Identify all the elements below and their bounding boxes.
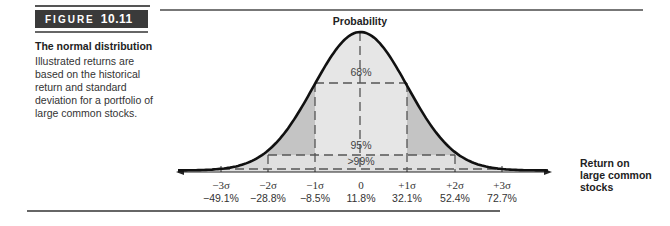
x-axis-title: Return on large common stocks [580, 157, 660, 193]
normal-distribution-chart: Probability 68% 95% >99% −3σ −49.1% −2σ … [0, 0, 670, 226]
x-axis-title-line1: Return on [580, 157, 660, 169]
tick-sigma-minus1: −1σ [306, 179, 324, 191]
x-axis-title-line3: stocks [580, 181, 660, 193]
label-99: >99% [347, 155, 374, 167]
tick-return-zero: 11.8% [347, 192, 376, 204]
tick-sigma-plus3: +3σ [493, 179, 511, 191]
tick-sigma-minus2: −2σ [259, 179, 277, 191]
tick-return-plus2: 52.4% [440, 192, 470, 204]
tick-return-plus3: 72.7% [487, 192, 517, 204]
tick-return-plus1: 32.1% [392, 192, 422, 204]
label-95: 95% [350, 139, 371, 151]
x-tick-labels: −3σ −49.1% −2σ −28.8% −1σ −8.5% 0 11.8% … [203, 179, 517, 204]
label-68: 68% [350, 66, 371, 78]
tick-return-minus2: −28.8% [250, 192, 286, 204]
tick-sigma-zero: 0 [358, 179, 364, 191]
tick-return-minus3: −49.1% [203, 192, 239, 204]
tick-return-minus1: −8.5% [300, 192, 330, 204]
tick-sigma-plus1: +1σ [398, 179, 416, 191]
tick-sigma-minus3: −3σ [212, 179, 230, 191]
y-axis-title: Probability [333, 15, 387, 27]
bottom-rule [27, 210, 500, 212]
tick-sigma-plus2: +2σ [446, 179, 464, 191]
x-axis-title-line2: large common [580, 169, 660, 181]
